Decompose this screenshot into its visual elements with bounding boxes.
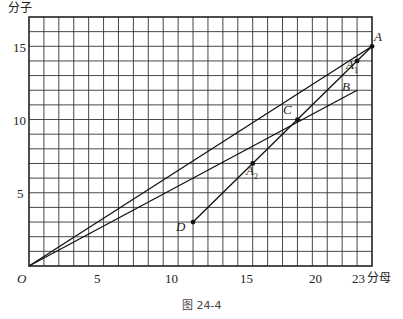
y-tick-10: 10 [13,114,26,127]
figure-caption: 图 24-4 [182,296,221,312]
x-tick-20: 20 [309,272,322,285]
y-tick-5: 5 [17,187,24,200]
point-label-b: B [342,80,350,93]
point-label-d: D [176,220,185,233]
line-oa [29,46,372,266]
x-tick-5: 5 [94,272,101,285]
plot-border [29,17,372,266]
y-axis-label: 分子 [8,2,22,15]
x-tick-10: 10 [165,272,178,285]
x-axis-label: 分母 [367,272,391,284]
x-tick-15: 15 [240,272,253,285]
origin-label: O [17,272,26,285]
x-tick-23: 23 [352,272,365,285]
point-label-c: C [283,103,292,116]
point-label-a: A [374,30,382,43]
point-d [191,220,196,225]
fraction-grid-diagram [0,0,403,319]
y-tick-15: 15 [13,41,26,54]
point-label-a2: A2 [246,164,258,181]
point-a [370,44,375,49]
point-label-a1: A1 [346,58,358,75]
point-c [295,117,300,122]
